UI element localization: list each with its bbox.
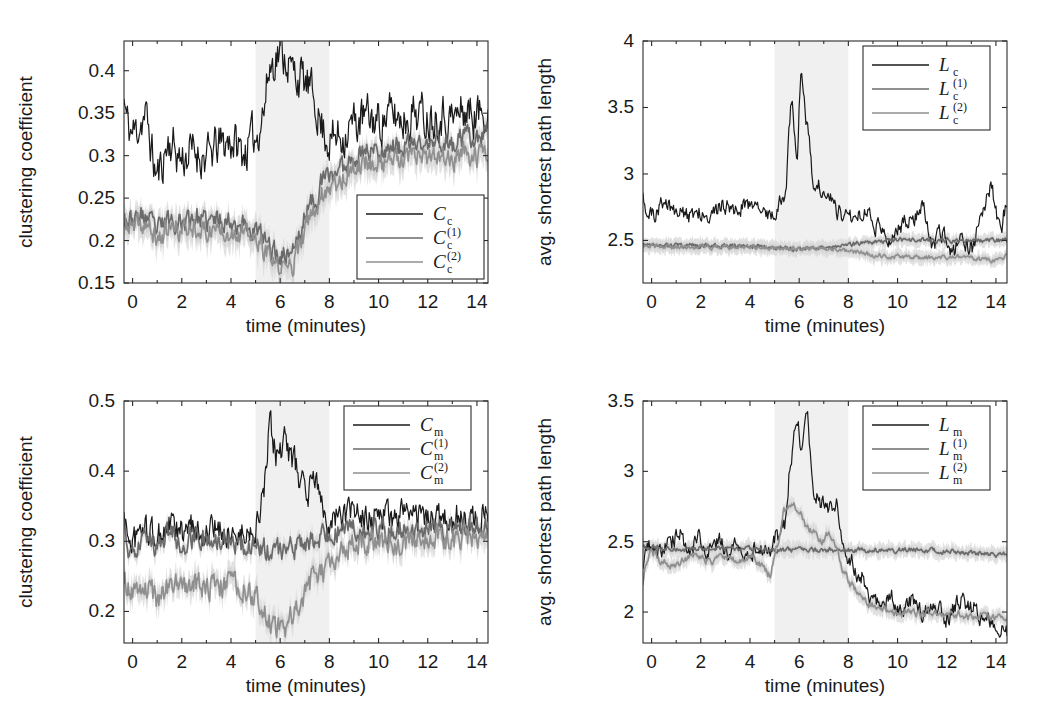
panel-top-left-svg: 024681012140.150.20.250.30.350.4time (mi… [0, 0, 519, 360]
legend-label-superscript: (1) [434, 436, 448, 450]
x-tick-label: 10 [368, 291, 389, 312]
y-tick-label: 3 [623, 460, 634, 481]
panel-top-right: 024681012142.533.54time (minutes)avg. sh… [519, 0, 1038, 360]
x-tick-label: 6 [794, 651, 805, 672]
x-tick-label: 12 [417, 651, 438, 672]
x-tick-label: 0 [646, 651, 657, 672]
x-tick-label: 12 [417, 291, 438, 312]
legend: LcLc(1)Lc(2) [863, 46, 990, 130]
y-tick-label: 0.3 [89, 530, 115, 551]
x-tick-label: 8 [843, 651, 854, 672]
x-tick-label: 14 [985, 291, 1007, 312]
legend-label: L [938, 462, 950, 483]
legend-label-superscript: (1) [953, 76, 967, 90]
legend-label: L [938, 54, 950, 75]
x-tick-label: 6 [794, 291, 805, 312]
legend-label-subscript: m [434, 473, 444, 487]
legend: CcCc(1)Cc(2) [357, 195, 484, 279]
legend-label-subscript: c [447, 262, 452, 276]
x-tick-label: 6 [275, 291, 286, 312]
x-tick-label: 14 [985, 651, 1007, 672]
legend-label-superscript: (2) [434, 460, 448, 474]
panel-bottom-right: 0246810121422.533.5time (minutes)avg. sh… [519, 360, 1038, 719]
x-axis-label: time (minutes) [246, 675, 366, 696]
y-tick-label: 4 [623, 30, 634, 51]
y-tick-label: 2 [623, 601, 634, 622]
panel-bottom-left: 024681012140.20.30.40.5time (minutes)clu… [0, 360, 519, 719]
x-tick-label: 0 [127, 291, 138, 312]
y-axis-label: avg. shortest path length [534, 418, 555, 626]
y-axis-label: clustering coefficient [15, 435, 36, 608]
x-tick-label: 0 [646, 291, 657, 312]
y-tick-label: 0.3 [89, 145, 115, 166]
x-tick-label: 2 [696, 651, 707, 672]
y-tick-label: 0.15 [78, 272, 115, 293]
x-axis-label: time (minutes) [765, 315, 885, 336]
panel-bottom-right-svg: 0246810121422.533.5time (minutes)avg. sh… [519, 360, 1038, 719]
x-tick-label: 6 [275, 651, 286, 672]
x-tick-label: 14 [466, 291, 488, 312]
y-tick-label: 0.5 [89, 390, 115, 411]
legend-label-superscript: (2) [447, 249, 461, 263]
y-tick-label: 2.5 [608, 229, 634, 250]
legend-label-superscript: (2) [953, 460, 967, 474]
y-axis-label: avg. shortest path length [534, 58, 555, 266]
legend-label: L [938, 78, 950, 99]
y-tick-label: 0.4 [89, 460, 116, 481]
x-tick-label: 2 [177, 291, 188, 312]
y-tick-label: 0.25 [78, 187, 115, 208]
y-tick-label: 0.4 [89, 60, 116, 81]
panel-top-right-svg: 024681012142.533.54time (minutes)avg. sh… [519, 0, 1038, 360]
x-tick-label: 12 [936, 291, 957, 312]
x-tick-label: 4 [745, 651, 756, 672]
panel-top-left: 024681012140.150.20.250.30.350.4time (mi… [0, 0, 519, 360]
x-tick-label: 4 [226, 651, 237, 672]
legend-label: L [938, 102, 950, 123]
y-tick-label: 0.35 [78, 102, 115, 123]
y-tick-label: 3.5 [608, 390, 634, 411]
legend: CmCm(1)Cm(2) [344, 406, 471, 490]
y-tick-label: 0.2 [89, 600, 115, 621]
y-tick-label: 3.5 [608, 96, 634, 117]
x-tick-label: 10 [368, 651, 389, 672]
y-tick-label: 2.5 [608, 531, 634, 552]
x-tick-label: 0 [127, 651, 138, 672]
x-tick-label: 10 [887, 291, 908, 312]
y-tick-label: 3 [623, 163, 634, 184]
legend-label-superscript: (1) [447, 225, 461, 239]
legend: LmLm(1)Lm(2) [863, 406, 990, 490]
x-axis-label: time (minutes) [246, 315, 366, 336]
legend-label: C [420, 438, 433, 459]
x-tick-label: 2 [696, 291, 707, 312]
x-tick-label: 12 [936, 651, 957, 672]
x-tick-label: 4 [745, 291, 756, 312]
legend-label: C [420, 462, 433, 483]
legend-label: C [433, 251, 446, 272]
legend-label: L [938, 414, 950, 435]
x-tick-label: 2 [177, 651, 188, 672]
x-axis-label: time (minutes) [765, 675, 885, 696]
x-tick-label: 8 [843, 291, 854, 312]
legend-label: C [433, 203, 446, 224]
legend-label-superscript: (1) [953, 436, 967, 450]
panel-bottom-left-svg: 024681012140.20.30.40.5time (minutes)clu… [0, 360, 519, 719]
legend-label: L [938, 438, 950, 459]
legend-label: C [420, 414, 433, 435]
y-tick-label: 0.2 [89, 230, 115, 251]
legend-label: C [433, 227, 446, 248]
x-tick-label: 4 [226, 291, 237, 312]
x-tick-label: 8 [324, 651, 335, 672]
x-tick-label: 14 [466, 651, 488, 672]
x-tick-label: 8 [324, 291, 335, 312]
legend-label-subscript: c [953, 113, 958, 127]
legend-label-subscript: m [953, 473, 963, 487]
x-tick-label: 10 [887, 651, 908, 672]
figure-canvas: 024681012140.150.20.250.30.350.4time (mi… [0, 0, 1038, 719]
legend-label-superscript: (2) [953, 100, 967, 114]
y-axis-label: clustering coefficient [15, 75, 36, 248]
